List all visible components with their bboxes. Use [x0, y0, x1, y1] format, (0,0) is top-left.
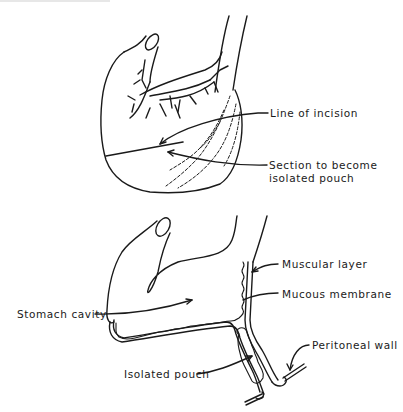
top-stomach-diagram: [101, 16, 268, 193]
label-isolated-pouch: Isolated pouch: [124, 368, 210, 380]
label-section-to-become-line1: Section to become: [269, 159, 377, 171]
label-stomach-cavity: Stomach cavity: [17, 308, 107, 320]
label-section-to-become-line2: isolated pouch: [269, 172, 354, 184]
label-muscular-layer: Muscular layer: [282, 258, 367, 270]
label-mucous-membrane: Mucous membrane: [282, 288, 392, 300]
figure-canvas: Line of incision Section to become isola…: [0, 0, 403, 412]
label-peritoneal-wall: Peritoneal wall: [312, 339, 398, 351]
label-line-of-incision: Line of incision: [270, 107, 358, 119]
